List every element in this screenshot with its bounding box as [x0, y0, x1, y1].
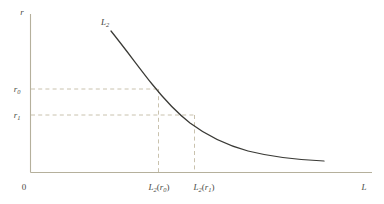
origin-label: 0	[22, 182, 27, 192]
y-axis-label: r	[20, 7, 24, 17]
x-tick-label-l2r0: L2(r0)	[148, 182, 170, 193]
x-tick-label-l2r1: L2(r1)	[193, 182, 215, 193]
x-axis-label-group: L	[360, 182, 366, 192]
x-tick-l2r0-close-paren: )	[166, 182, 169, 192]
x-tick-l2r1-close-paren: )	[211, 182, 214, 192]
economics-curve-figure: L2 r L 0 r0 r1 L2(r0) L2(r1)	[0, 0, 384, 204]
y-axis-label-group: r	[20, 7, 24, 17]
figure-background	[0, 0, 384, 204]
y-tick-r1-subscript: 1	[17, 114, 20, 121]
x-axis-label: L	[360, 182, 366, 192]
origin-label-group: 0	[22, 182, 27, 192]
